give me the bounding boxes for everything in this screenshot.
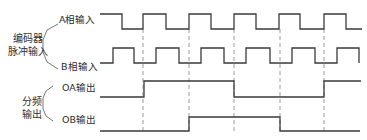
encoder-label-line2: 脉冲输入 xyxy=(8,45,48,58)
timing-diagram: 编码器 脉冲输入 分频 输出 A相输入 B相输入 OA输出 OB输出 xyxy=(0,0,367,140)
signal-label-oa: OA输出 xyxy=(62,82,96,94)
waveforms xyxy=(100,14,362,131)
divider-group-label: 分频 输出 xyxy=(22,95,42,121)
encoder-label-line1: 编码器 xyxy=(8,32,48,45)
waveform-oa xyxy=(100,81,361,97)
divider-label-line1: 分频 xyxy=(22,95,42,108)
waveform-b xyxy=(100,48,359,63)
signal-label-b: B相输入 xyxy=(61,61,98,73)
signal-label-a: A相输入 xyxy=(59,14,96,26)
waveform-a xyxy=(100,14,362,29)
waveform-ob xyxy=(100,117,360,131)
waveform-canvas xyxy=(0,0,367,140)
divider-bracket xyxy=(43,86,53,121)
encoder-group-label: 编码器 脉冲输入 xyxy=(8,32,48,58)
divider-label-line2: 输出 xyxy=(22,108,42,121)
signal-label-ob: OB输出 xyxy=(62,114,96,126)
